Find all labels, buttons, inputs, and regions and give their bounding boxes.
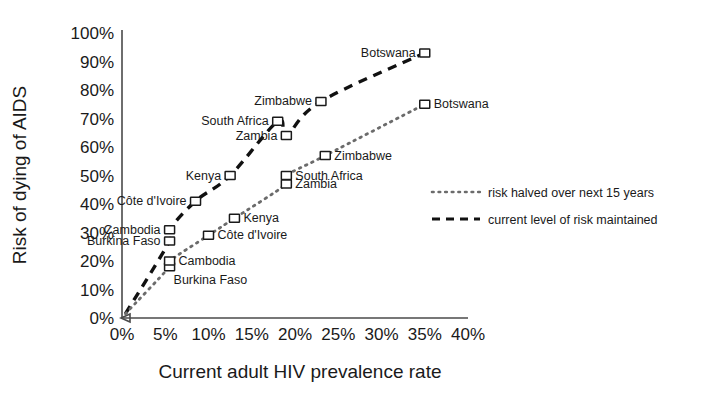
- hiv-risk-scatter-chart: 0%10%20%30%40%50%60%70%80%90%100% 0%5%10…: [0, 0, 702, 395]
- point-label: Cambodia: [104, 223, 161, 237]
- data-point-marker: [165, 237, 175, 245]
- y-tick-label: 70%: [80, 110, 114, 129]
- point-label: Zimbabwe: [334, 149, 392, 163]
- point-label: Côte d'Ivoire: [218, 228, 288, 242]
- point-label: Zambia: [295, 177, 337, 191]
- y-tick-label: 90%: [80, 53, 114, 72]
- y-tick-label: 40%: [80, 195, 114, 214]
- point-label: Botswana: [361, 46, 416, 60]
- data-point-marker: [420, 49, 430, 57]
- data-point-marker: [165, 226, 175, 234]
- series-line-dashed: [125, 53, 424, 314]
- point-label: Botswana: [434, 97, 489, 111]
- y-tick-label: 20%: [80, 252, 114, 271]
- y-tick-label: 60%: [80, 138, 114, 157]
- x-tick-label: 40%: [451, 325, 485, 344]
- chart-container: 0%10%20%30%40%50%60%70%80%90%100% 0%5%10…: [0, 0, 702, 395]
- x-tick-label: 10%: [191, 325, 225, 344]
- x-axis-tick-labels: 0%5%10%15%20%25%30%35%40%: [110, 325, 485, 344]
- legend-label: current level of risk maintained: [488, 213, 658, 227]
- point-label: Zambia: [236, 129, 278, 143]
- data-point-marker: [225, 172, 235, 180]
- data-point-marker: [420, 100, 430, 108]
- point-label: Kenya: [243, 211, 278, 225]
- x-tick-label: 20%: [278, 325, 312, 344]
- data-point-marker: [165, 257, 175, 265]
- data-point-marker: [204, 231, 214, 239]
- x-tick-label: 0%: [110, 325, 135, 344]
- x-tick-label: 35%: [408, 325, 442, 344]
- data-point-marker: [273, 117, 283, 125]
- point-label: Zimbabwe: [254, 94, 312, 108]
- x-tick-label: 30%: [364, 325, 398, 344]
- y-axis-tick-labels: 0%10%20%30%40%50%60%70%80%90%100%: [71, 24, 114, 328]
- y-tick-label: 80%: [80, 81, 114, 100]
- x-tick-label: 5%: [153, 325, 178, 344]
- y-tick-label: 10%: [80, 281, 114, 300]
- series-point-labels: Burkina FasoCambodiaCôte d'IvoireKenyaSo…: [87, 46, 489, 287]
- y-tick-label: 100%: [71, 24, 114, 43]
- point-label: South Africa: [201, 114, 268, 128]
- point-label: Cambodia: [179, 254, 236, 268]
- data-point-marker: [281, 172, 291, 180]
- series-trend-lines: [125, 53, 424, 314]
- legend-label: risk halved over next 15 years: [488, 186, 654, 200]
- y-tick-label: 50%: [80, 167, 114, 186]
- data-point-marker: [281, 132, 291, 140]
- data-point-marker: [191, 197, 201, 205]
- data-point-marker: [316, 97, 326, 105]
- point-label: Kenya: [186, 169, 221, 183]
- point-label: Côte d'Ivoire: [117, 194, 187, 208]
- x-tick-label: 15%: [235, 325, 269, 344]
- y-axis-title: Risk of dying of AIDS: [9, 86, 30, 264]
- x-tick-label: 25%: [321, 325, 355, 344]
- x-axis-title: Current adult HIV prevalence rate: [158, 361, 441, 382]
- point-label: Burkina Faso: [174, 273, 248, 287]
- data-point-marker: [320, 152, 330, 160]
- data-point-marker: [281, 180, 291, 188]
- legend: risk halved over next 15 yearscurrent le…: [432, 186, 658, 227]
- data-point-marker: [229, 214, 239, 222]
